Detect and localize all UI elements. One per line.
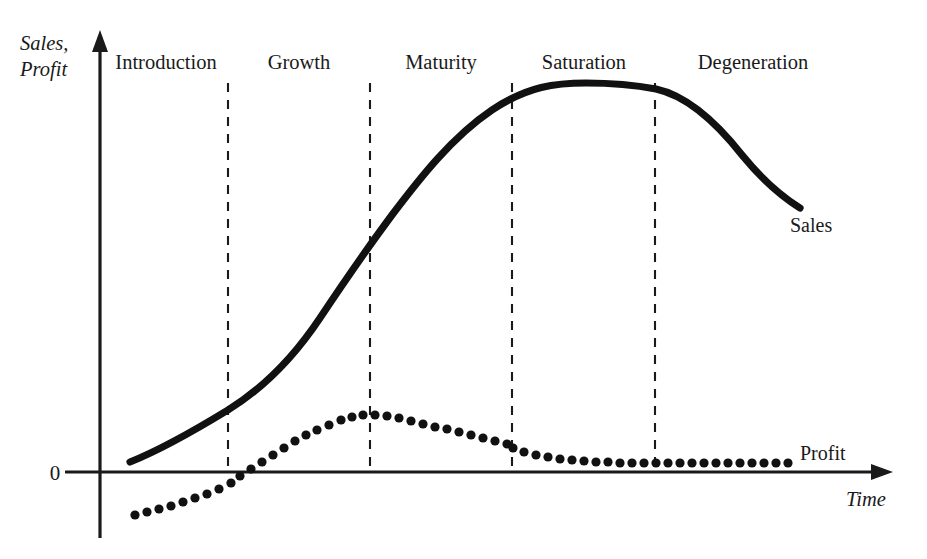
profit-curve-dot xyxy=(166,501,175,510)
profit-curve xyxy=(130,410,792,519)
stage-label-growth: Growth xyxy=(268,51,331,73)
y-axis-caption-line2: Profit xyxy=(19,58,68,81)
profit-curve-dot xyxy=(735,458,744,467)
sales-curve xyxy=(130,83,800,462)
profit-curve-dot xyxy=(466,430,475,439)
profit-curve-dot xyxy=(454,427,463,436)
profit-curve-dot xyxy=(226,478,235,487)
profit-curve-dot xyxy=(358,410,367,419)
profit-curve-dot xyxy=(675,458,684,467)
profit-curve-dot xyxy=(490,436,499,445)
profit-curve-dot xyxy=(290,436,299,445)
profit-curve-dot xyxy=(579,456,588,465)
profit-curve-dot xyxy=(154,504,163,513)
profit-curve-dot xyxy=(567,455,576,464)
caption-group: Sales, Profit 0 Time Sales Profit xyxy=(19,32,886,510)
profit-curve-dot xyxy=(627,458,636,467)
profit-curve-dot xyxy=(478,433,487,442)
profit-curve-dot xyxy=(268,450,277,459)
profit-curve-dot xyxy=(324,420,333,429)
profit-curve-dot xyxy=(687,458,696,467)
profit-curve-dot xyxy=(555,454,564,463)
profit-curve-dot xyxy=(519,447,528,456)
y-axis-arrow-icon xyxy=(92,30,108,52)
profit-curve-dot xyxy=(591,457,600,466)
profit-curve-dot xyxy=(531,450,540,459)
stage-label-group: Introduction Growth Maturity Saturation … xyxy=(115,51,808,74)
profit-curve-dot xyxy=(543,452,552,461)
profit-curve-dot xyxy=(130,510,139,519)
profit-curve-dot xyxy=(699,458,708,467)
profit-curve-dot xyxy=(442,424,451,433)
stage-label-saturation: Saturation xyxy=(542,51,626,73)
profit-curve-dot xyxy=(771,458,780,467)
origin-zero-label: 0 xyxy=(50,461,61,485)
profit-curve-dot xyxy=(190,493,199,502)
profit-curve-dot xyxy=(418,419,427,428)
product-life-cycle-figure: Introduction Growth Maturity Saturation … xyxy=(0,0,927,559)
profit-curve-dot xyxy=(711,458,720,467)
profit-curve-dot xyxy=(312,425,321,434)
x-axis-caption-time: Time xyxy=(846,488,886,510)
profit-curve-dot xyxy=(615,458,624,467)
stage-label-maturity: Maturity xyxy=(405,51,477,74)
profit-curve-dot xyxy=(301,430,310,439)
profit-curve-dot xyxy=(723,458,732,467)
axis-group xyxy=(65,30,893,538)
profit-curve-dot xyxy=(508,443,517,452)
profit-curve-dot xyxy=(639,458,648,467)
profit-curve-dot xyxy=(759,458,768,467)
profit-curve-dot xyxy=(336,415,345,424)
series-label-profit: Profit xyxy=(800,442,846,464)
stage-label-introduction: Introduction xyxy=(115,51,216,73)
profit-curve-dot xyxy=(783,458,792,467)
chart-canvas: Introduction Growth Maturity Saturation … xyxy=(0,0,927,559)
profit-curve-dot xyxy=(142,507,151,516)
profit-curve-dot xyxy=(279,443,288,452)
profit-curve-dot xyxy=(382,411,391,420)
profit-curve-dot xyxy=(394,413,403,422)
profit-curve-dot xyxy=(257,457,266,466)
y-axis-caption-line1: Sales, xyxy=(20,32,68,54)
profit-curve-dot xyxy=(651,458,660,467)
profit-curve-dot xyxy=(202,489,211,498)
profit-curve-dot xyxy=(347,412,356,421)
series-label-sales: Sales xyxy=(790,214,832,236)
profit-curve-dot xyxy=(246,464,255,473)
profit-curve-dot xyxy=(747,458,756,467)
profit-curve-dot xyxy=(178,497,187,506)
x-axis-arrow-icon xyxy=(871,464,893,480)
profit-curve-dot xyxy=(430,422,439,431)
stage-divider-group xyxy=(228,83,655,472)
profit-curve-dot xyxy=(370,410,379,419)
profit-curve-dot xyxy=(235,471,244,480)
profit-curve-dot xyxy=(406,416,415,425)
stage-label-degeneration: Degeneration xyxy=(698,51,808,74)
profit-curve-dot xyxy=(603,457,612,466)
profit-curve-dot xyxy=(663,458,672,467)
profit-curve-dot xyxy=(214,484,223,493)
